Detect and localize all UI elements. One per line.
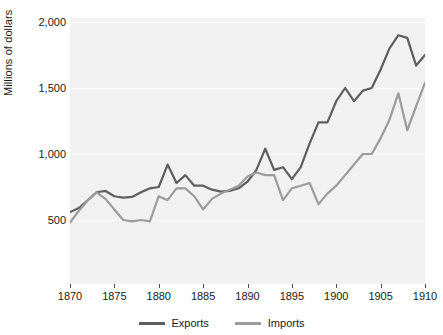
x-tick-label: 1905 [368,290,392,302]
legend-label: Imports [268,318,305,329]
y-tick-label: 2,000 [20,17,66,28]
x-tick-label: 1900 [324,290,348,302]
x-tick-mark [114,284,115,288]
x-tick-mark [425,284,426,288]
y-tick-label: 1,500 [20,83,66,94]
y-tick-label: 500 [20,215,66,226]
series-lines [70,18,425,284]
plot-area [70,18,425,284]
legend-item-imports[interactable]: Imports [235,318,305,329]
chart-legend: ExportsImports [0,313,443,333]
legend-label: Exports [172,318,209,329]
x-tick-label: 1880 [147,290,171,302]
x-tick-mark [159,284,160,288]
line-chart: Millions of dollars 5001,0001,5002,000 1… [0,0,443,335]
x-tick-mark [336,284,337,288]
x-tick-mark [292,284,293,288]
y-tick-label: 1,000 [20,149,66,160]
legend-item-exports[interactable]: Exports [139,318,209,329]
x-tick-label: 1890 [235,290,259,302]
x-tick-mark [248,284,249,288]
x-tick-mark [203,284,204,288]
x-tick-label: 1870 [58,290,82,302]
x-tick-label: 1875 [102,290,126,302]
x-tick-mark [381,284,382,288]
x-tick-label: 1910 [413,290,437,302]
y-axis-title: Millions of dollars [2,0,14,96]
x-tick-label: 1885 [191,290,215,302]
x-tick-label: 1895 [280,290,304,302]
series-line-exports [70,35,425,212]
legend-swatch-icon [235,322,261,325]
x-axis-tick-labels: 187018751880188518901895190019051910 [0,284,443,310]
series-line-imports [70,83,425,223]
legend-swatch-icon [139,322,165,325]
x-tick-mark [70,284,71,288]
